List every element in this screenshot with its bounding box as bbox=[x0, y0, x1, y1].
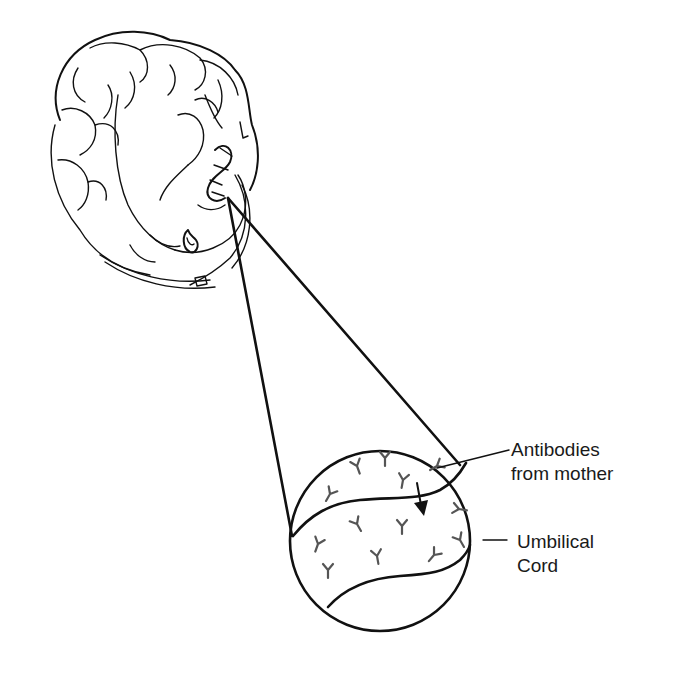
umbilical-cord-label: Umbilical Cord bbox=[517, 530, 594, 578]
magnification-lines bbox=[228, 198, 460, 536]
antibody-group bbox=[311, 452, 469, 578]
fetus-illustration bbox=[51, 32, 258, 289]
antibodies-label: Antibodies from mother bbox=[511, 438, 613, 486]
antibodies-label-line1: Antibodies bbox=[511, 438, 613, 462]
diagram-canvas: Antibodies from mother Umbilical Cord bbox=[0, 0, 679, 677]
cord-label-line2: Cord bbox=[517, 554, 594, 578]
cord-label-line1: Umbilical bbox=[517, 530, 594, 554]
down-arrow-icon bbox=[414, 483, 428, 516]
antibodies-label-line2: from mother bbox=[511, 462, 613, 486]
